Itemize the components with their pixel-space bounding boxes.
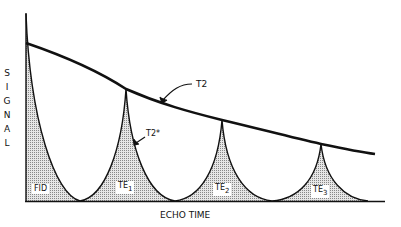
y-label-letter: L	[2, 136, 12, 150]
fid-label: FID	[32, 184, 49, 194]
te2-label: TE2	[213, 183, 231, 196]
te3-label: TE3	[311, 185, 329, 198]
y-label-letter: A	[2, 122, 12, 136]
y-axis-label: S I G N A L	[2, 66, 12, 150]
fid-region	[26, 14, 80, 201]
t2-arrow-icon	[160, 84, 192, 103]
y-label-letter: G	[2, 94, 12, 108]
shaded-signal-regions	[26, 14, 368, 201]
te2-label-sub: 2	[225, 187, 229, 195]
echo-signal-diagram	[0, 0, 401, 227]
t2-label: T2	[196, 80, 207, 89]
y-label-letter: I	[2, 80, 12, 94]
t2-star-arrow-icon	[134, 137, 145, 145]
fid-label-text: FID	[34, 184, 47, 193]
te1-label-sub: 1	[128, 185, 132, 193]
t2-envelope-curve	[26, 43, 375, 154]
te2-label-text: TE	[215, 183, 225, 192]
te3-label-text: TE	[313, 185, 323, 194]
te3-label-sub: 3	[323, 189, 327, 197]
t2-star-label: T2*	[146, 130, 160, 138]
te1-label: TE1	[116, 181, 134, 194]
y-label-letter: N	[2, 108, 12, 122]
x-axis-label: ECHO TIME	[160, 211, 210, 220]
y-label-letter: S	[2, 66, 12, 80]
te1-label-text: TE	[118, 181, 128, 190]
